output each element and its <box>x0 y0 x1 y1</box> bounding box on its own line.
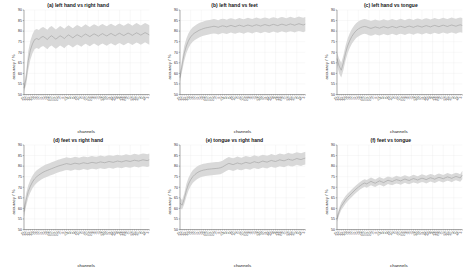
plot-area-d: 505560657075808590FzFC3FC1FCzFC2FC4C5C3C… <box>0 135 156 269</box>
x-tick-label: Iz <box>458 95 463 100</box>
y-tick-label: 85 <box>174 19 178 23</box>
std-band-e <box>180 151 305 209</box>
y-tick-label: 55 <box>18 82 22 86</box>
y-tick-label: 80 <box>18 29 22 33</box>
subplot-c: (c) left hand vs tongueaccuracy / %chann… <box>313 0 469 135</box>
y-tick-label: 75 <box>174 174 178 178</box>
subplot-a: (a) left hand vs right handaccuracy / %c… <box>0 0 156 135</box>
y-tick-label: 75 <box>331 174 335 178</box>
y-tick-label: 65 <box>18 61 22 65</box>
y-tick-label: 60 <box>18 72 22 76</box>
y-tick-label: 85 <box>331 153 335 157</box>
subplot-e: (e) tongue vs right handaccuracy / %chan… <box>156 135 312 269</box>
y-tick-label: 60 <box>331 206 335 210</box>
y-tick-label: 80 <box>174 164 178 168</box>
y-tick-label: 85 <box>174 153 178 157</box>
x-tick-label: Iz <box>302 95 307 100</box>
y-tick-label: 65 <box>174 196 178 200</box>
y-tick-label: 90 <box>18 8 22 12</box>
y-tick-label: 55 <box>174 217 178 221</box>
y-tick-label: 70 <box>18 51 22 55</box>
y-tick-label: 75 <box>18 174 22 178</box>
y-tick-label: 90 <box>331 143 335 147</box>
y-tick-label: 65 <box>174 61 178 65</box>
subplot-d: (d) feet vs right handaccuracy / %channe… <box>0 135 156 269</box>
y-tick-label: 80 <box>18 164 22 168</box>
y-tick-label: 55 <box>18 217 22 221</box>
y-tick-label: 70 <box>18 185 22 189</box>
std-band-a <box>24 23 149 91</box>
y-tick-label: 75 <box>18 40 22 44</box>
y-tick-label: 85 <box>331 19 335 23</box>
y-tick-label: 85 <box>18 19 22 23</box>
y-tick-label: 60 <box>174 72 178 76</box>
y-tick-label: 80 <box>174 29 178 33</box>
x-tick-label: Iz <box>302 229 307 234</box>
y-tick-label: 80 <box>331 164 335 168</box>
subplot-f: (f) feet vs tongueaccuracy / %channels50… <box>313 135 469 269</box>
y-tick-label: 70 <box>174 185 178 189</box>
x-tick-label: Iz <box>146 229 151 234</box>
y-tick-label: 70 <box>174 51 178 55</box>
y-tick-label: 65 <box>331 196 335 200</box>
plot-area-c: 505560657075808590FzFC3FC1FCzFC2FC4C5C3C… <box>313 0 469 135</box>
subplot-b: (b) left hand vs feetaccuracy / %channel… <box>156 0 312 135</box>
figure-panel-grid: (a) left hand vs right handaccuracy / %c… <box>0 0 469 269</box>
y-tick-label: 75 <box>331 40 335 44</box>
y-tick-label: 90 <box>18 143 22 147</box>
y-tick-label: 55 <box>331 82 335 86</box>
plot-area-e: 505560657075808590FzFC3FC1FCzFC2FC4C5C3C… <box>156 135 312 269</box>
y-tick-label: 75 <box>174 40 178 44</box>
y-tick-label: 80 <box>331 29 335 33</box>
y-tick-label: 85 <box>18 153 22 157</box>
y-tick-label: 65 <box>18 196 22 200</box>
plot-area-a: 505560657075808590FzFC3FC1FCzFC2FC4C5C3C… <box>0 0 156 135</box>
x-tick-label: Iz <box>458 229 463 234</box>
y-tick-label: 90 <box>331 8 335 12</box>
y-tick-label: 90 <box>174 143 178 147</box>
plot-area-f: 505560657075808590FzFC3FC1FCzFC2FC4C5C3C… <box>313 135 469 269</box>
y-tick-label: 90 <box>174 8 178 12</box>
y-tick-label: 60 <box>18 206 22 210</box>
y-tick-label: 55 <box>331 217 335 221</box>
x-tick-label: Iz <box>146 95 151 100</box>
y-tick-label: 70 <box>331 185 335 189</box>
std-band-d <box>24 153 149 216</box>
y-tick-label: 70 <box>331 51 335 55</box>
y-tick-label: 60 <box>331 72 335 76</box>
plot-area-b: 505560657075808590FzFC3FC1FCzFC2FC4C5C3C… <box>156 0 312 135</box>
y-tick-label: 55 <box>174 82 178 86</box>
y-tick-label: 60 <box>174 206 178 210</box>
y-tick-label: 65 <box>331 61 335 65</box>
